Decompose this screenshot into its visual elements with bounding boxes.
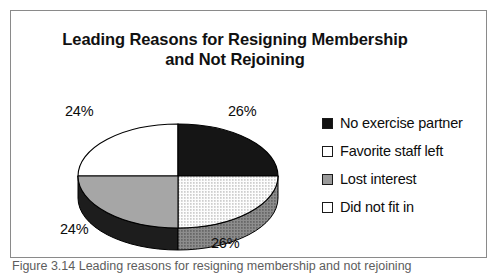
pie-slice-no-exercise-partner — [178, 124, 278, 176]
pie-label-lost-interest: 24% — [60, 221, 88, 237]
chart-legend: No exercise partner Favorite staff left … — [322, 111, 494, 223]
chart-title-line-2: and Not Rejoining — [25, 49, 445, 69]
legend-item-lost-interest: Lost interest — [322, 167, 494, 192]
pie-label-no-exercise-partner: 26% — [228, 103, 256, 119]
legend-label-did-not-fit-in: Did not fit in — [340, 200, 414, 216]
chart-title: Leading Reasons for Resigning Membership… — [25, 29, 445, 70]
legend-label-favorite-staff-left: Favorite staff left — [340, 144, 443, 160]
pie-label-did-not-fit-in: 24% — [65, 103, 93, 119]
legend-label-lost-interest: Lost interest — [340, 172, 416, 188]
legend-swatch-icon-lost-interest — [322, 174, 333, 185]
legend-swatch-icon-favorite-staff-left — [322, 146, 333, 157]
chart-title-line-1: Leading Reasons for Resigning Membership — [25, 29, 445, 49]
legend-swatch-icon-no-exercise-partner — [322, 118, 333, 129]
pie-slice-did-not-fit-in — [78, 124, 178, 176]
legend-swatch-icon-did-not-fit-in — [322, 202, 333, 213]
figure-frame: Leading Reasons for Resigning Membership… — [10, 10, 487, 258]
legend-item-favorite-staff-left: Favorite staff left — [322, 139, 494, 164]
pie-chart-plot-area: 24% 26% 24% 26% — [25, 89, 315, 257]
pie-label-favorite-staff-left: 26% — [211, 235, 239, 251]
legend-label-no-exercise-partner: No exercise partner — [340, 116, 463, 132]
legend-item-no-exercise-partner: No exercise partner — [322, 111, 494, 136]
figure-caption: Figure 3.14 Leading reasons for resignin… — [12, 259, 492, 275]
legend-item-did-not-fit-in: Did not fit in — [322, 195, 494, 220]
